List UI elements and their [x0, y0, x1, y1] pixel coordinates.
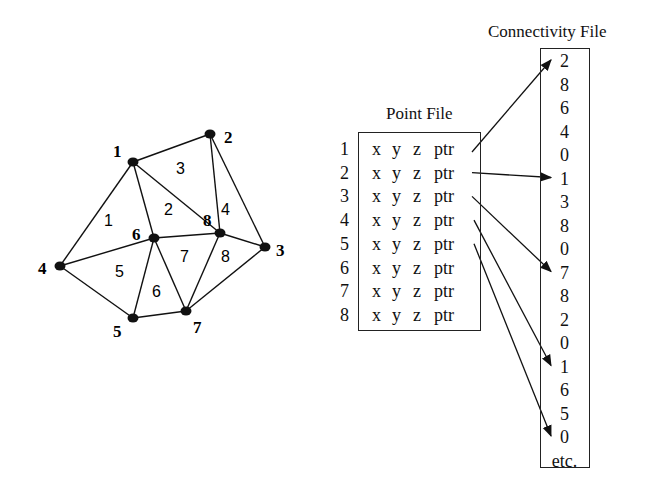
point-z-field: z — [413, 233, 421, 256]
mesh-node — [149, 234, 160, 243]
point-x-field: x — [372, 233, 381, 256]
point-file-row: 2xyzptr — [340, 162, 480, 185]
triangle-label: 1 — [104, 212, 113, 229]
triangle-label: 5 — [115, 263, 124, 280]
mesh-node — [181, 307, 192, 316]
connectivity-entry: 1 — [540, 168, 589, 192]
connectivity-entry: 6 — [540, 97, 589, 121]
point-y-field: y — [392, 162, 401, 185]
connectivity-entry: 0 — [540, 332, 589, 356]
point-y-field: y — [392, 209, 401, 232]
point-file-row: 6xyzptr — [340, 257, 480, 280]
connectivity-entry: 4 — [540, 121, 589, 145]
mesh-edge — [220, 233, 265, 247]
node-label: 5 — [113, 322, 122, 341]
point-file-row: 3xyzptr — [340, 185, 480, 208]
point-x-field: x — [372, 209, 381, 232]
point-y-field: y — [392, 233, 401, 256]
point-z-field: z — [413, 257, 421, 280]
connectivity-entry: 8 — [540, 74, 589, 98]
connectivity-entry: 6 — [540, 379, 589, 403]
point-y-field: y — [392, 138, 401, 161]
connectivity-entry: etc. — [540, 450, 589, 474]
point-y-field: y — [392, 257, 401, 280]
mesh-edge — [210, 134, 220, 233]
point-z-field: z — [413, 138, 421, 161]
point-file-row: 1xyzptr — [340, 138, 480, 161]
point-file-row: 5xyzptr — [340, 233, 480, 256]
triangle-label: 3 — [176, 160, 185, 177]
triangle-label: 7 — [180, 248, 189, 265]
point-index: 1 — [340, 138, 354, 161]
connectivity-entry: 0 — [540, 144, 589, 168]
node-label: 3 — [276, 241, 285, 260]
triangle-label: 2 — [164, 201, 173, 218]
mesh-node — [215, 229, 226, 238]
point-ptr-field: ptr — [434, 162, 454, 185]
point-ptr-field: ptr — [434, 185, 454, 208]
mesh-edge — [133, 311, 186, 318]
point-x-field: x — [372, 257, 381, 280]
point-ptr-field: ptr — [434, 138, 454, 161]
point-index: 2 — [340, 162, 354, 185]
connectivity-entry: 8 — [540, 215, 589, 239]
point-x-field: x — [372, 304, 381, 327]
node-label: 1 — [113, 142, 122, 161]
triangle-label: 6 — [152, 283, 161, 300]
node-label: 8 — [203, 211, 212, 230]
point-index: 4 — [340, 209, 354, 232]
point-y-field: y — [392, 185, 401, 208]
point-index: 7 — [340, 280, 354, 303]
point-ptr-field: ptr — [434, 304, 454, 327]
connectivity-entry: 2 — [540, 50, 589, 74]
mesh-edge — [133, 134, 210, 162]
mesh-edge — [186, 233, 220, 311]
point-index: 8 — [340, 304, 354, 327]
connectivity-entry: 2 — [540, 309, 589, 333]
point-x-field: x — [372, 138, 381, 161]
triangle-label: 8 — [221, 248, 230, 265]
point-file-row: 7xyzptr — [340, 280, 480, 303]
mesh-node — [128, 158, 139, 167]
point-x-field: x — [372, 162, 381, 185]
mesh-edge — [60, 162, 133, 266]
point-x-field: x — [372, 280, 381, 303]
connectivity-entry: 5 — [540, 403, 589, 427]
mesh-edge — [154, 233, 220, 238]
mesh-edge — [133, 238, 154, 318]
mesh-node — [128, 314, 139, 323]
point-ptr-field: ptr — [434, 257, 454, 280]
node-label: 4 — [38, 259, 47, 278]
connectivity-entry: 8 — [540, 285, 589, 309]
node-label: 7 — [193, 318, 202, 337]
point-x-field: x — [372, 185, 381, 208]
triangle-label: 4 — [221, 201, 230, 218]
point-z-field: z — [413, 304, 421, 327]
point-file-row: 8xyzptr — [340, 304, 480, 327]
connectivity-file-title: Connectivity File — [488, 22, 607, 42]
mesh-node — [55, 262, 66, 271]
point-z-field: z — [413, 185, 421, 208]
point-z-field: z — [413, 162, 421, 185]
point-index: 6 — [340, 257, 354, 280]
point-z-field: z — [413, 209, 421, 232]
point-file-title: Point File — [386, 104, 453, 124]
point-y-field: y — [392, 280, 401, 303]
point-file-row: 4xyzptr — [340, 209, 480, 232]
node-label: 2 — [224, 128, 233, 147]
mesh-node — [260, 243, 271, 252]
point-index: 5 — [340, 233, 354, 256]
mesh-node — [205, 130, 216, 139]
connectivity-entry: 0 — [540, 426, 589, 450]
connectivity-entry: 1 — [540, 356, 589, 380]
point-ptr-field: ptr — [434, 233, 454, 256]
point-z-field: z — [413, 280, 421, 303]
point-y-field: y — [392, 304, 401, 327]
connectivity-entry: 3 — [540, 191, 589, 215]
node-label: 6 — [132, 225, 141, 244]
point-index: 3 — [340, 185, 354, 208]
point-ptr-field: ptr — [434, 280, 454, 303]
connectivity-entry: 7 — [540, 262, 589, 286]
point-ptr-field: ptr — [434, 209, 454, 232]
connectivity-entry: 0 — [540, 238, 589, 262]
